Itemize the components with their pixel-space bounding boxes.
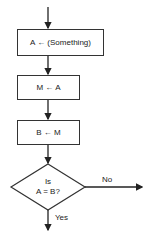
process-text: M ← A xyxy=(36,83,60,92)
process-text: B ← M xyxy=(36,128,60,137)
decision-text: Is A = B? xyxy=(18,177,78,197)
process-text: A ← (Something) xyxy=(30,38,91,47)
decision-line-2: A = B? xyxy=(18,187,78,197)
process-box-assign-m: M ← A xyxy=(17,75,80,100)
decision-line-1: Is xyxy=(18,177,78,187)
yes-branch-label: Yes xyxy=(55,213,68,222)
no-branch-label: No xyxy=(102,175,112,184)
process-box-assign-b: B ← M xyxy=(17,120,80,145)
process-box-assign-a: A ← (Something) xyxy=(17,29,104,56)
